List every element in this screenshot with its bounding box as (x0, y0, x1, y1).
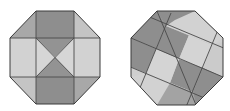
octagon-dissection-diagram (0, 0, 230, 111)
left-octagon (10, 11, 100, 104)
left-bottom-square (36, 77, 74, 104)
right-octagon (128, 0, 230, 111)
figure (0, 0, 230, 111)
left-left-square (10, 38, 36, 77)
left-right-square (74, 38, 100, 77)
left-top-square (36, 11, 74, 38)
